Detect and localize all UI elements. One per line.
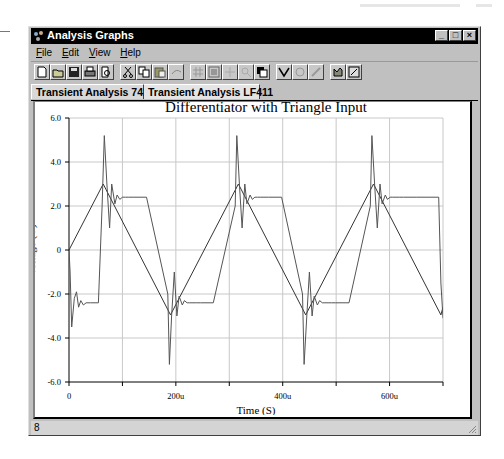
properties-button[interactable] xyxy=(292,64,308,80)
minimize-button[interactable]: _ xyxy=(435,30,448,41)
zoom-icon xyxy=(240,66,252,78)
new-button[interactable] xyxy=(34,64,50,80)
print-preview-button[interactable] xyxy=(98,64,114,80)
tab-label: Transient Analysis LF411 xyxy=(148,86,273,98)
open-icon xyxy=(52,66,64,78)
trace-icon xyxy=(278,66,290,78)
new-icon xyxy=(36,66,48,78)
maximize-icon: □ xyxy=(453,30,458,40)
save-icon xyxy=(68,66,80,78)
y-tick-label: 0 xyxy=(57,245,61,255)
chart: Differentiator with Triangle Input6.04.0… xyxy=(35,102,472,415)
status-text: 8 xyxy=(34,422,40,433)
plot-panel: Differentiator with Triangle Input6.04.0… xyxy=(33,101,472,419)
zoom-button[interactable] xyxy=(238,64,254,80)
cursor-button[interactable] xyxy=(222,64,238,80)
y-tick-label: -2.0 xyxy=(48,289,61,299)
minimize-icon: _ xyxy=(439,30,444,40)
tab-transient-lf411[interactable]: Transient Analysis LF411 xyxy=(144,84,260,99)
book-page-header xyxy=(360,2,500,8)
maximize-button[interactable]: □ xyxy=(449,30,462,41)
y-axis-label: Voltage (V) xyxy=(35,224,38,276)
grid-button[interactable] xyxy=(190,64,206,80)
resize-grip-icon[interactable] xyxy=(467,424,477,434)
x-tick-label: 0 xyxy=(67,391,71,401)
print-button[interactable] xyxy=(82,64,98,80)
copy-icon xyxy=(138,66,150,78)
close-icon: × xyxy=(467,30,472,40)
status-bar: 8 xyxy=(31,421,478,435)
undo-button[interactable] xyxy=(168,64,184,80)
x-tick-label: 600u xyxy=(381,391,399,401)
trace-button[interactable] xyxy=(276,64,292,80)
tab-label: Transient Analysis 741 xyxy=(36,86,149,98)
analysis-graphs-window: Analysis Graphs _ □ × File Edit View Hel… xyxy=(28,26,481,436)
page-header-text xyxy=(360,4,460,7)
y-tick-label: -6.0 xyxy=(48,377,61,387)
tab-strip: Transient Analysis 741 Transient Analysi… xyxy=(31,84,478,101)
x-tick-label: 400u xyxy=(274,391,292,401)
triangle-input-trace xyxy=(69,184,443,315)
toolbar xyxy=(31,62,478,84)
close-button[interactable]: × xyxy=(463,30,476,41)
properties-icon xyxy=(294,66,306,78)
tab-transient-741[interactable]: Transient Analysis 741 xyxy=(31,84,144,99)
open-button[interactable] xyxy=(50,64,66,80)
margin-rule xyxy=(0,31,10,32)
menu-edit[interactable]: Edit xyxy=(62,47,79,58)
print-preview-icon xyxy=(100,66,112,78)
export-button[interactable] xyxy=(330,64,346,80)
chart-title: Differentiator with Triangle Input xyxy=(165,102,368,115)
x-axis-label: Time (S) xyxy=(236,404,275,415)
list-icon xyxy=(208,66,220,78)
marker-icon xyxy=(310,66,322,78)
save-button[interactable] xyxy=(66,64,82,80)
export-icon xyxy=(332,66,344,78)
paste-icon xyxy=(154,66,166,78)
toggle-icon xyxy=(348,66,360,78)
y-tick-label: -4.0 xyxy=(48,333,61,343)
menu-view[interactable]: View xyxy=(89,47,111,58)
page-number xyxy=(476,4,492,7)
menu-help[interactable]: Help xyxy=(120,47,141,58)
print-icon xyxy=(84,66,96,78)
x-tick-label: 200u xyxy=(167,391,185,401)
toggle-button[interactable] xyxy=(346,64,362,80)
y-tick-label: 2.0 xyxy=(50,201,61,211)
paste-button[interactable] xyxy=(152,64,168,80)
grid-icon xyxy=(192,66,204,78)
y-tick-label: 6.0 xyxy=(50,113,61,123)
y-tick-label: 4.0 xyxy=(50,157,61,167)
menu-file[interactable]: File xyxy=(36,47,52,58)
copy-button[interactable] xyxy=(136,64,152,80)
cut-button[interactable] xyxy=(120,64,136,80)
cursor-icon xyxy=(224,66,236,78)
window-title: Analysis Graphs xyxy=(47,29,134,41)
app-icon xyxy=(33,30,45,42)
undo-icon xyxy=(170,66,182,78)
menu-bar: File Edit View Help xyxy=(31,45,478,62)
overlay-button[interactable] xyxy=(254,64,270,80)
cut-icon xyxy=(122,66,134,78)
marker-button[interactable] xyxy=(308,64,324,80)
list-button[interactable] xyxy=(206,64,222,80)
title-bar[interactable]: Analysis Graphs _ □ × xyxy=(31,28,478,44)
overlay-icon xyxy=(256,66,268,78)
